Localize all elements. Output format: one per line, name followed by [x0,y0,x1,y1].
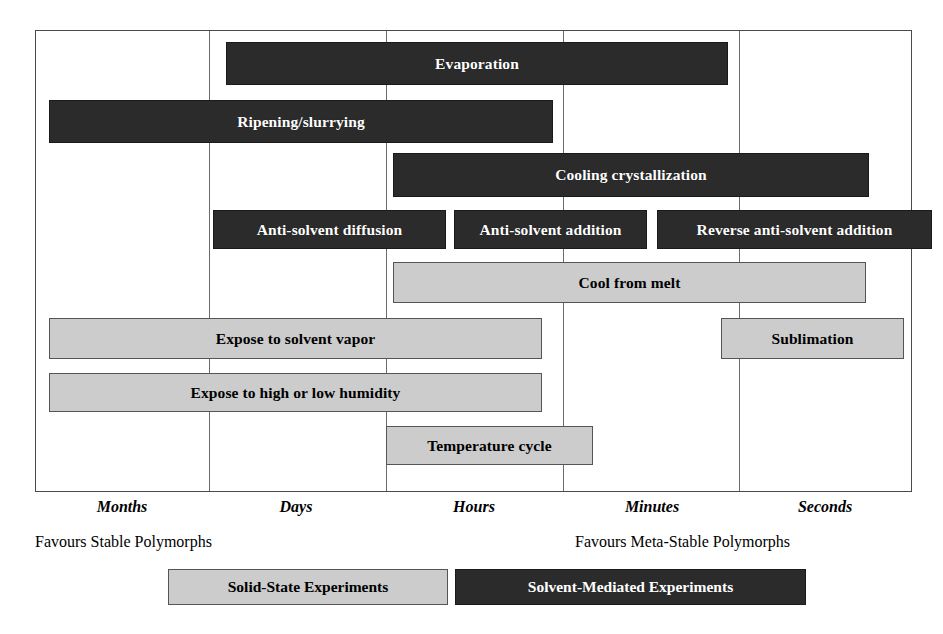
bar-ripening-slurrying: Ripening/slurrying [49,100,553,143]
bar-expose-to-solvent-vapor: Expose to solvent vapor [49,318,542,359]
bar-anti-solvent-diffusion: Anti-solvent diffusion [213,210,446,249]
polymorph-timescale-figure: EvaporationRipening/slurryingCooling cry… [0,0,943,634]
gridline-2 [563,31,564,491]
tick-label-minutes: Minutes [625,498,679,516]
tick-label-seconds: Seconds [798,498,852,516]
bar-evaporation: Evaporation [226,42,728,85]
bar-cool-from-melt: Cool from melt [393,262,866,303]
bar-cooling-crystallization: Cooling crystallization [393,153,869,197]
plot-frame: EvaporationRipening/slurryingCooling cry… [35,30,912,492]
legend-item-solvent-mediated: Solvent-Mediated Experiments [455,569,806,605]
bar-expose-to-high-or-low-humidity: Expose to high or low humidity [49,373,542,412]
favours-stable-caption: Favours Stable Polymorphs [35,533,212,551]
bar-reverse-anti-solvent-addition: Reverse anti-solvent addition [657,210,932,249]
tick-label-months: Months [97,498,148,516]
bar-temperature-cycle: Temperature cycle [386,426,593,465]
legend-item-solid-state: Solid-State Experiments [168,569,448,605]
bar-anti-solvent-addition: Anti-solvent addition [454,210,647,249]
gridline-3 [739,31,740,491]
tick-label-days: Days [280,498,313,516]
tick-label-hours: Hours [453,498,495,516]
bar-sublimation: Sublimation [721,318,904,359]
favours-metastable-caption: Favours Meta-Stable Polymorphs [575,533,790,551]
